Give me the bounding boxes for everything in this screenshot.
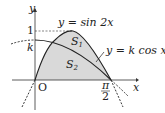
x-axis-label: x [133, 81, 140, 94]
graph-diagram: y x O 1 k π 2 y = sin 2x y = k cos x S1 … [0, 0, 165, 113]
sine-curve-label: y = sin 2x [57, 16, 114, 29]
cosine-curve-label: y = k cos x [105, 44, 165, 57]
origin-label: O [38, 81, 47, 94]
tick-x-two: 2 [102, 90, 109, 103]
y-axis-label: y [28, 2, 36, 15]
tick-y-one: 1 [27, 24, 34, 37]
tick-y-k: k [27, 41, 34, 54]
